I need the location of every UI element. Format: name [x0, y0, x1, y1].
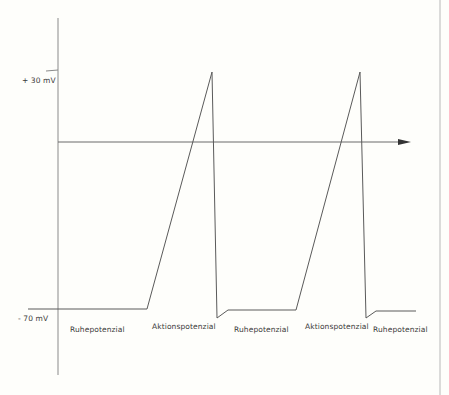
- phase-label-rest-2: Ruhepotenzial: [234, 325, 289, 334]
- x-axis-arrow-icon: [398, 139, 411, 145]
- phase-label-rest-1: Ruhepotenzial: [70, 325, 125, 334]
- tick-plus30: [46, 70, 58, 71]
- phase-label-action-2: Aktionspotenzial: [305, 322, 369, 331]
- membrane-potential-curve: [28, 72, 416, 318]
- phase-label-rest-3: Ruhepotenzial: [373, 325, 428, 334]
- y-tick-label-minus70: - 70 mV: [18, 314, 48, 323]
- phase-label-action-1: Aktionspotenzial: [152, 322, 216, 331]
- y-tick-label-plus30: + 30 mV: [22, 76, 56, 85]
- action-potential-diagram: [0, 0, 449, 395]
